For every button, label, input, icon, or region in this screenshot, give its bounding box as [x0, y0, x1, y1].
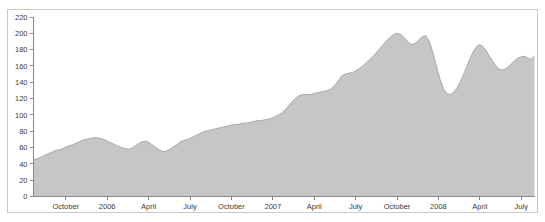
y-axis-tick-label: 80 [19, 127, 27, 136]
x-axis-tick-label: 2008 [430, 202, 447, 211]
y-axis-tick-label: 60 [19, 143, 27, 152]
x-axis-tick-label: July [515, 202, 529, 211]
y-axis-tick-label: 40 [19, 160, 27, 169]
x-axis-tick-label: April [472, 202, 487, 211]
x-axis-tick-label: October [52, 202, 79, 211]
y-axis-tick-label: 100 [15, 111, 28, 120]
y-axis: 020406080100120140160180200220 [15, 13, 34, 202]
x-axis: October2006AprilJulyOctober2007AprilJuly… [34, 197, 535, 212]
y-axis-tick-label: 160 [15, 62, 28, 71]
x-axis-tick-label: July [183, 202, 197, 211]
x-axis-tick-label: July [349, 202, 363, 211]
y-axis-tick-label: 140 [15, 78, 28, 87]
y-axis-tick-label: 0 [23, 192, 27, 201]
y-axis-tick-label: 120 [15, 94, 28, 103]
y-axis-tick-label: 180 [15, 45, 28, 54]
x-axis-tick-label: October [384, 202, 411, 211]
series-area-fill [34, 33, 535, 196]
x-axis-tick-label: 2006 [99, 202, 116, 211]
x-axis-tick-label: April [141, 202, 156, 211]
x-axis-tick-label: 2007 [264, 202, 281, 211]
x-axis-tick-label: October [218, 202, 245, 211]
y-axis-tick-label: 20 [19, 176, 27, 185]
y-axis-tick-label: 200 [15, 29, 28, 38]
x-axis-tick-label: April [307, 202, 322, 211]
chart-container: 020406080100120140160180200220 October20… [0, 0, 545, 222]
plot-area [34, 33, 535, 196]
y-axis-tick-label: 220 [15, 13, 28, 22]
area-chart: 020406080100120140160180200220 October20… [0, 0, 545, 222]
